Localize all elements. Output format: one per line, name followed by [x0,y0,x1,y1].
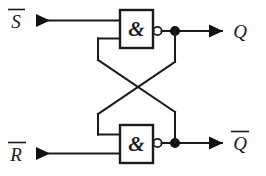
feedback-qbar-diagonal [98,60,175,112]
label-r-bar-group: R [8,143,26,166]
label-s-bar: S [11,11,21,32]
gate-top-symbol: & [128,17,145,41]
gate-top-inversion-bubble [153,27,161,35]
output-q-arrowhead [209,25,223,38]
label-q-bar-group: Q [231,132,249,155]
circuit-diagram-canvas: & & [0,0,266,176]
output-qbar-wire-group [162,137,223,150]
feedback-q-diagonal [98,62,175,114]
gate-bottom-inversion-bubble [153,139,161,147]
label-q: Q [233,21,247,42]
input-r-bar-group[interactable] [36,147,120,160]
sr-latch-schematic: & & [0,0,266,176]
gate-top-group[interactable]: & [120,10,162,48]
label-s-bar-group: S [8,10,25,33]
label-q-group: Q [233,21,247,42]
output-q-wire-group [162,25,223,38]
gate-bottom-symbol: & [128,132,145,156]
label-q-bar: Q [233,133,247,154]
output-qbar-arrowhead [209,137,223,150]
gate-bottom-group[interactable]: & [120,125,162,163]
label-r-bar: R [9,144,22,165]
input-s-bar-group[interactable] [36,14,120,27]
